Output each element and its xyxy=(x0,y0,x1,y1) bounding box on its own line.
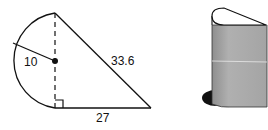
figure-canvas: 10 33.6 27 xyxy=(0,0,268,130)
right-diagram xyxy=(202,8,267,107)
radius-label: 10 xyxy=(24,55,38,69)
left-diagram: 10 33.6 27 xyxy=(13,13,151,125)
right-angle-marker xyxy=(55,100,63,108)
base-label: 27 xyxy=(96,111,110,125)
hypotenuse xyxy=(55,13,151,108)
prism-top-face xyxy=(212,8,266,25)
hypotenuse-label: 33.6 xyxy=(111,54,135,68)
center-point xyxy=(52,58,58,64)
